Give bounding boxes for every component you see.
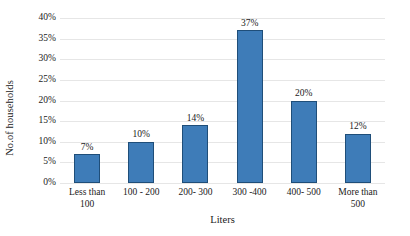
bar-slot: 10% bbox=[114, 18, 168, 183]
y-axis-tick-label: 35% bbox=[22, 34, 56, 44]
bar-value-label: 20% bbox=[295, 89, 312, 99]
bar[interactable]: 14% bbox=[182, 125, 208, 183]
y-axis-tick-label: 40% bbox=[22, 13, 56, 23]
bar[interactable]: 20% bbox=[291, 101, 317, 184]
y-axis-title: No.of households bbox=[0, 0, 18, 236]
y-axis-tick-label: 10% bbox=[22, 137, 56, 147]
bar-slot: 20% bbox=[277, 18, 331, 183]
y-axis-tick-label: 0% bbox=[22, 178, 56, 188]
bar-value-label: 14% bbox=[187, 114, 204, 124]
y-axis-tick-label: 15% bbox=[22, 116, 56, 126]
bar-slot: 14% bbox=[168, 18, 222, 183]
bar-slot: 7% bbox=[60, 18, 114, 183]
bar-value-label: 37% bbox=[241, 19, 258, 29]
y-axis-tick-label: 5% bbox=[22, 158, 56, 168]
y-axis-tick-label: 25% bbox=[22, 75, 56, 85]
bar[interactable]: 7% bbox=[74, 154, 100, 183]
plot-area: 7%10%14%37%20%12% bbox=[60, 18, 385, 183]
bar-slot: 12% bbox=[331, 18, 385, 183]
bar-value-label: 7% bbox=[81, 143, 94, 153]
bars-container: 7%10%14%37%20%12% bbox=[60, 18, 385, 183]
bar[interactable]: 10% bbox=[128, 142, 154, 183]
bar-value-label: 12% bbox=[349, 122, 366, 132]
y-axis-tick-label: 30% bbox=[22, 55, 56, 65]
y-axis-tick-label: 20% bbox=[22, 96, 56, 106]
bar[interactable]: 37% bbox=[237, 30, 263, 183]
bar[interactable]: 12% bbox=[345, 134, 371, 184]
gridline bbox=[60, 183, 385, 184]
bar-value-label: 10% bbox=[133, 130, 150, 140]
bar-slot: 37% bbox=[223, 18, 277, 183]
y-axis-tick-labels: 0%5%10%15%20%25%30%35%40% bbox=[22, 0, 56, 236]
bar-chart-figure: No.of households 0%5%10%15%20%25%30%35%4… bbox=[0, 0, 410, 236]
x-axis-title: Liters bbox=[60, 214, 385, 225]
